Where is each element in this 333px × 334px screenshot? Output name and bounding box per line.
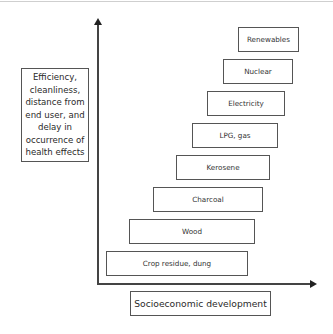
ladder-step-charcoal: Charcoal [153, 187, 263, 212]
ladder-step-renewables: Renewables [238, 27, 299, 52]
x-axis-label-box: Socioeconomic development [130, 291, 271, 316]
y-axis-arrow-icon [94, 18, 102, 25]
y-axis-label-box: Efficiency, cleanliness, distance from e… [21, 68, 89, 162]
ladder-step-kerosene: Kerosene [176, 155, 270, 180]
ladder-step-electricity: Electricity [207, 91, 285, 116]
x-axis-arrow-icon [310, 280, 317, 288]
ladder-step-crop-residue-dung: Crop residue, dung [106, 251, 248, 276]
ladder-step-wood: Wood [129, 219, 255, 244]
ladder-step-lpg-gas: LPG, gas [192, 123, 278, 148]
y-axis-line [97, 24, 99, 285]
top-border-line [0, 1, 333, 2]
ladder-step-nuclear: Nuclear [223, 59, 293, 84]
x-axis-line [97, 283, 311, 285]
